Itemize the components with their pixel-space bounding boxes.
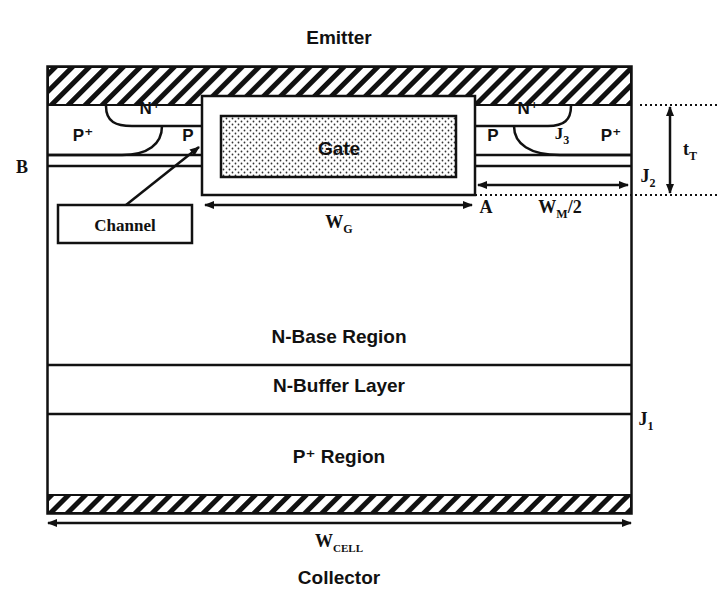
gate-label: Gate bbox=[318, 138, 360, 159]
j3-label: J3 bbox=[555, 124, 570, 147]
wm-half-label: WM/2 bbox=[538, 197, 581, 221]
wcell-label: WCELL bbox=[315, 531, 363, 554]
p-left-label: P bbox=[182, 126, 193, 145]
collector-label: Collector bbox=[298, 567, 381, 588]
emitter-label: Emitter bbox=[306, 27, 372, 48]
n-buffer-label: N-Buffer Layer bbox=[273, 375, 406, 396]
p-plus-region-label: P⁺ Region bbox=[293, 446, 385, 467]
channel-label: Channel bbox=[94, 216, 156, 235]
point-b-label: B bbox=[16, 157, 28, 177]
tt-label: tT bbox=[683, 139, 697, 163]
igbt-cross-section-diagram: Emitter Gate N⁺ N⁺ P⁺ P P P⁺ J3 B Channe… bbox=[0, 0, 720, 615]
n-plus-left-label: N⁺ bbox=[139, 99, 160, 118]
n-base-label: N-Base Region bbox=[271, 326, 406, 347]
collector-contact bbox=[48, 495, 631, 513]
wg-label: WG bbox=[325, 212, 352, 236]
p-plus-right-label: P⁺ bbox=[601, 126, 621, 145]
p-right-label: P bbox=[487, 126, 498, 145]
point-a-label: A bbox=[480, 197, 493, 217]
n-plus-right-label: N⁺ bbox=[517, 99, 538, 118]
j2-label: J2 bbox=[641, 166, 656, 190]
p-plus-left-label: P⁺ bbox=[73, 126, 93, 145]
p-plus-left-boundary bbox=[48, 126, 162, 155]
j1-label: J1 bbox=[639, 409, 654, 433]
